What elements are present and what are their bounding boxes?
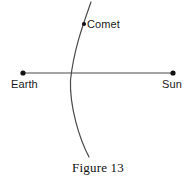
earth-marker-dot — [20, 70, 25, 75]
figure-container: Earth Sun Comet Figure 13 — [0, 0, 196, 181]
sun-marker-dot — [170, 70, 175, 75]
comet-marker-dot — [82, 22, 86, 26]
comet-label: Comet — [87, 19, 120, 30]
figure-caption: Figure 13 — [0, 160, 196, 175]
earth-label: Earth — [11, 79, 38, 90]
sun-label: Sun — [162, 79, 182, 90]
